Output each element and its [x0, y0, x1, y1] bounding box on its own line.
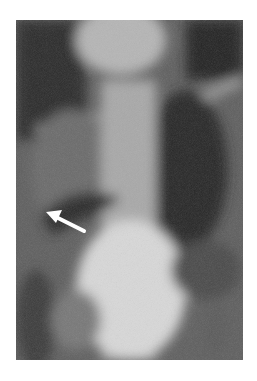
xray-image	[16, 20, 243, 360]
xray-svg	[16, 20, 243, 360]
